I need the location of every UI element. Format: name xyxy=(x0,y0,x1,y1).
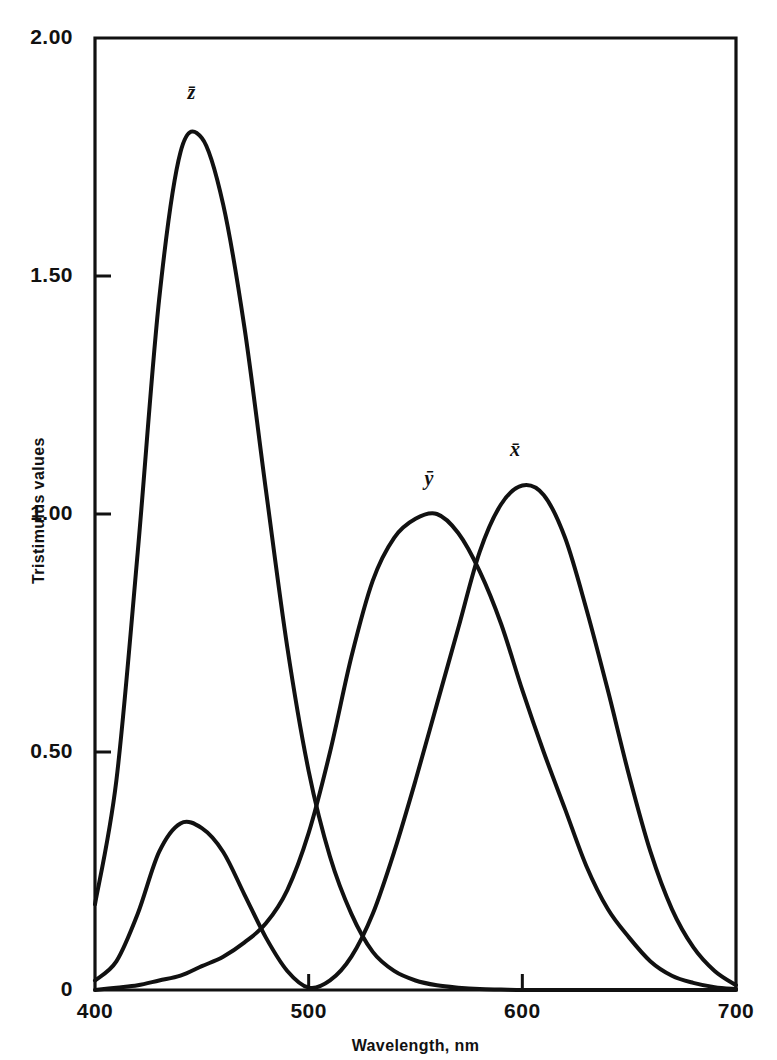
x-tick-label-500: 500 xyxy=(264,999,354,1023)
data-curves xyxy=(95,131,736,990)
curve-z-bar xyxy=(95,131,736,990)
curve-y-bar xyxy=(95,513,736,990)
curve-label-z-bar: z̄ xyxy=(187,81,195,104)
x-tick-label-700: 700 xyxy=(691,999,777,1023)
curve-label-y-bar: ȳ xyxy=(425,467,434,490)
plot-border xyxy=(95,38,736,990)
curve-x-bar xyxy=(95,485,736,988)
y-tick-label-2: 2.00 xyxy=(0,25,73,49)
x-tick-label-400: 400 xyxy=(50,999,140,1023)
x-tick-label-600: 600 xyxy=(477,999,567,1023)
chart-plot-area xyxy=(0,0,777,1060)
x-axis-title: Wavelength, nm xyxy=(336,1037,496,1055)
y-tick-label-0p5: 0.50 xyxy=(0,739,73,763)
y-tick-label-1p5: 1.50 xyxy=(0,263,73,287)
chart-figure: 2.00 1.50 1.00 0.50 0 400 500 600 700 Wa… xyxy=(0,0,777,1060)
plot-frame xyxy=(95,38,736,990)
y-axis-title: Tristimulus values xyxy=(30,437,48,584)
y-tick-label-0: 0 xyxy=(0,977,73,1001)
curve-label-x-bar: x̄ xyxy=(510,438,520,461)
